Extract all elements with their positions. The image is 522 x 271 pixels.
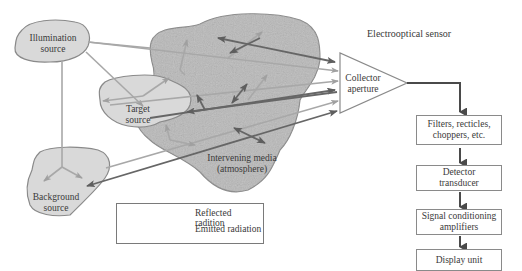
target-source-label: Target source bbox=[118, 104, 158, 126]
legend-emitted: Emitted radiation bbox=[189, 224, 261, 234]
collector-line1: Collector bbox=[342, 73, 384, 84]
collector-aperture-label: Collector aperture bbox=[342, 73, 384, 95]
legend-emitted-label: Emitted radiation bbox=[195, 224, 261, 234]
detector-line2: transducer bbox=[439, 178, 479, 189]
signal-line2: amplifiers bbox=[422, 222, 497, 233]
legend: Reflected radition Emitted radiation bbox=[116, 203, 264, 244]
filters-line2: choppers, etc. bbox=[427, 130, 490, 141]
sensor-title: Electrooptical sensor bbox=[367, 28, 451, 39]
background-line1: Background bbox=[26, 192, 86, 203]
signal-line1: Signal conditioning bbox=[422, 211, 497, 222]
intervening-media-label: Intervening media (atmosphere) bbox=[202, 153, 282, 175]
display-unit-box: Display unit bbox=[416, 249, 502, 271]
filters-box: Filters, recticles, choppers, etc. bbox=[416, 115, 502, 145]
display-line1: Display unit bbox=[436, 255, 483, 266]
illumination-line2: source bbox=[22, 44, 84, 55]
filters-line1: Filters, recticles, bbox=[427, 119, 490, 130]
background-line2: source bbox=[26, 203, 86, 214]
target-line2: source bbox=[118, 115, 158, 126]
detector-line1: Detector bbox=[439, 167, 479, 178]
illumination-line1: Illumination bbox=[22, 33, 84, 44]
media-line1: Intervening media bbox=[202, 153, 282, 164]
illumination-source-label: Illumination source bbox=[22, 33, 84, 55]
collector-line2: aperture bbox=[342, 84, 384, 95]
target-line1: Target bbox=[118, 104, 158, 115]
media-line2: (atmosphere) bbox=[202, 164, 282, 175]
signal-conditioning-box: Signal conditioning amplifiers bbox=[416, 209, 502, 235]
background-source-label: Background source bbox=[26, 192, 86, 214]
detector-box: Detector transducer bbox=[416, 165, 502, 191]
